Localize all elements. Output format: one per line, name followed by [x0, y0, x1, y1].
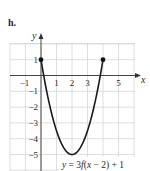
y-tick-label: −2 [28, 102, 38, 112]
panel-label: h. [8, 17, 17, 28]
equation-label: y = 3f(x − 2) + 1 [61, 160, 124, 171]
endpoint-dot [101, 57, 106, 62]
y-axis-arrow-icon [39, 33, 44, 39]
x-tick-label: 3 [85, 78, 90, 88]
y-tick-label: −3 [28, 118, 38, 128]
y-tick-label: −4 [28, 134, 38, 144]
x-axis-label: x [140, 74, 146, 85]
x-tick-label: 2 [70, 78, 75, 88]
x-tick-label: 1 [54, 78, 59, 88]
chart: −11235 1−1−2−3−4−5 x y h. y = 3f(x − 2) … [0, 0, 150, 171]
y-tick-label: 1 [34, 55, 39, 65]
x-tick-label: 5 [116, 78, 121, 88]
y-tick-label: −1 [28, 86, 38, 96]
endpoint-dot [39, 57, 44, 62]
y-tick-labels: 1−1−2−3−4−5 [28, 55, 38, 160]
y-axis-label: y [31, 30, 37, 41]
y-tick-label: −5 [28, 150, 38, 160]
